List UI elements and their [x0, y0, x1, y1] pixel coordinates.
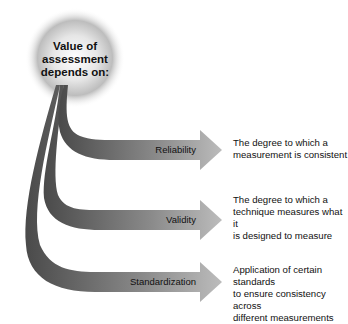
reliability-label: Reliability	[120, 144, 196, 155]
validity-description: The degree to which a technique measures…	[233, 194, 348, 242]
desc-line: to ensure consistency across	[233, 288, 348, 312]
desc-line: is designed to measure	[233, 230, 348, 242]
center-label: Value of assessment depends on:	[28, 40, 122, 79]
standardization-label: Standardization	[60, 276, 196, 287]
desc-line: The degree to which a	[233, 194, 348, 206]
center-line-1: Value of	[28, 40, 122, 53]
reliability-description: The degree to which a measurement is con…	[233, 137, 347, 161]
desc-line: technique measures what it	[233, 206, 348, 230]
standardization-description: Application of certain standards to ensu…	[233, 264, 348, 324]
center-line-3: depends on:	[28, 66, 122, 79]
validity-label: Validity	[120, 214, 196, 225]
center-line-2: assessment	[28, 53, 122, 66]
desc-line: different measurements	[233, 312, 348, 324]
desc-line: measurement is consistent	[233, 149, 347, 161]
desc-line: Application of certain standards	[233, 264, 348, 288]
desc-line: The degree to which a	[233, 137, 347, 149]
